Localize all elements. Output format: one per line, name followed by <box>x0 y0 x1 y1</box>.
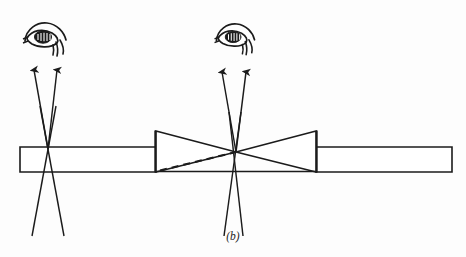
waveguide-bar-right <box>316 147 452 172</box>
figure-container: (b) <box>0 0 466 257</box>
right-eye-iris <box>225 31 241 42</box>
waveguide-bar-left <box>20 147 156 172</box>
bar-left-outline <box>20 147 156 172</box>
bar-right-outline <box>316 147 452 172</box>
figure-caption: (b) <box>226 230 240 243</box>
left-eye-iris <box>35 31 52 43</box>
ray-diagram-svg: (b) <box>0 0 466 257</box>
